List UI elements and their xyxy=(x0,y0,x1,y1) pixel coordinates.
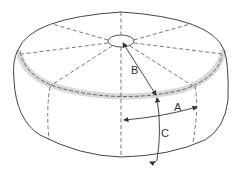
label-b: B xyxy=(131,65,138,76)
label-a: A xyxy=(174,102,181,113)
measure-b-arrow xyxy=(123,43,156,95)
measure-c-arrow xyxy=(150,98,160,163)
label-c: C xyxy=(161,128,169,139)
top-radial-seams xyxy=(22,12,222,86)
measure-a-arrow xyxy=(124,107,197,120)
cushion-diagram: B A C xyxy=(0,0,242,173)
diagram-graphic xyxy=(0,0,242,173)
center-hub xyxy=(108,35,134,47)
